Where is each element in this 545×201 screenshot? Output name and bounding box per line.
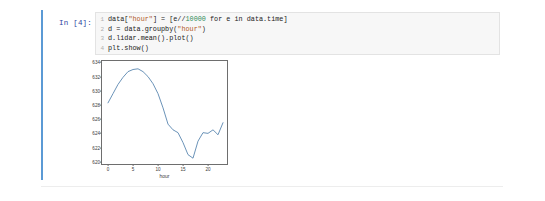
x-tick-label: 0: [107, 167, 110, 172]
plot-line-svg: [102, 61, 229, 166]
y-tick-label: 632: [92, 74, 100, 79]
code-line-number: 4: [96, 44, 108, 54]
x-tick-label: 20: [205, 167, 210, 172]
code-editor[interactable]: 1data["hour"] = [e//10000 for e in data.…: [95, 12, 500, 55]
code-line-number: 3: [96, 34, 108, 44]
code-line: 1data["hour"] = [e//10000 for e in data.…: [96, 15, 499, 25]
y-tick-label: 634: [92, 60, 100, 65]
plot-axes-frame: 620622624626628630632634 05101520: [101, 60, 228, 165]
x-tick-label: 10: [155, 167, 160, 172]
y-tick-label: 620: [92, 159, 100, 164]
y-tick-label: 626: [92, 117, 100, 122]
cell-selection-bar: [41, 10, 43, 180]
figure-output-area: 620622624626628630632634 05101520 hour: [95, 57, 245, 185]
cell-bottom-divider: [41, 186, 503, 187]
code-line-text: d.lidar.mean().plot(): [108, 34, 194, 44]
code-line: 2d = data.groupby("hour"): [96, 25, 499, 35]
x-axis-title: hour: [101, 173, 228, 179]
code-line-list: 1data["hour"] = [e//10000 for e in data.…: [96, 15, 499, 53]
x-tick-label: 5: [132, 167, 135, 172]
y-tick-label: 630: [92, 88, 100, 93]
code-line-text: data["hour"] = [e//10000 for e in data.t…: [108, 15, 288, 25]
code-line-text: d = data.groupby("hour"): [108, 25, 206, 35]
data-series-lidar: [108, 69, 223, 158]
code-line-number: 2: [96, 25, 108, 35]
y-tick-label: 622: [92, 145, 100, 150]
cell-prompt-label: In [4]:: [50, 19, 92, 27]
x-tick-label: 15: [180, 167, 185, 172]
notebook-code-cell[interactable]: In [4]: 1data["hour"] = [e//10000 for e …: [0, 0, 545, 201]
code-line-number: 1: [96, 15, 108, 25]
code-line-text: plt.show(): [108, 44, 149, 54]
y-tick-label: 624: [92, 131, 100, 136]
code-line: 3d.lidar.mean().plot(): [96, 34, 499, 44]
code-line: 4plt.show(): [96, 44, 499, 54]
y-tick-label: 628: [92, 102, 100, 107]
